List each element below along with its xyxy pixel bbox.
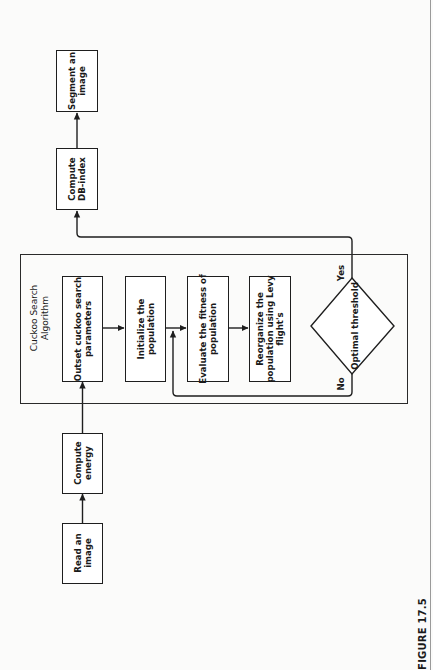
node-compute-db-index-label: Compute DB-index xyxy=(67,157,87,201)
decision-no-label: No xyxy=(336,377,346,390)
node-read-image-label: Read an image xyxy=(73,533,93,572)
figure-caption: FIGURE 17.5 xyxy=(418,598,428,670)
node-compute-energy-label: Compute energy xyxy=(73,441,93,484)
page-edge-rule xyxy=(430,0,431,670)
node-outset-parameters-label: Outset cuckoo search parameters xyxy=(73,277,93,381)
node-segment-image-label: Segment an image xyxy=(67,52,87,110)
decision-yes-label: Yes xyxy=(336,265,346,281)
figure-page: Cuckoo Search Algorithm Outset cuckoo se… xyxy=(0,0,433,670)
node-reorganize-population-label: Reorganize the population using Levy fli… xyxy=(255,275,285,382)
node-initialize-population-label: Initialize the population xyxy=(136,299,156,360)
decision-optimal-threshold-label: Optimal threshold xyxy=(350,282,360,370)
cuckoo-search-title: Cuckoo Search Algorithm xyxy=(29,285,51,352)
node-evaluate-fitness-label: Evaluate the fitness of population xyxy=(198,274,218,383)
